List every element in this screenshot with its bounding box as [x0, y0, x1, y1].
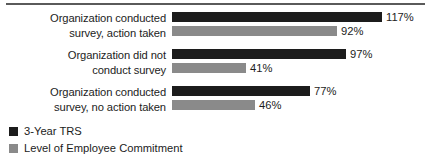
category-label: Organization did not conduct survey — [4, 48, 166, 77]
legend-item-3-year-trs: 3-Year TRS — [9, 124, 183, 139]
bar-level-of-employee-commitment — [172, 63, 246, 73]
bar-group: Organization conducted survey, action ta… — [0, 11, 429, 48]
category-label-line1: Organization conducted — [50, 12, 166, 24]
table-row: 92% — [172, 26, 429, 36]
bar-3-year-trs — [172, 12, 382, 22]
bar-level-of-employee-commitment — [172, 100, 255, 110]
bar-group-bars: 77% 46% — [172, 86, 429, 114]
bar-value-label: 92% — [341, 24, 363, 38]
chart-legend: 3-Year TRS Level of Employee Commitment — [9, 124, 183, 158]
bar-value-label: 117% — [386, 10, 414, 24]
table-row: 97% — [172, 49, 429, 59]
category-label-line1: Organization did not — [68, 49, 166, 61]
legend-swatch-icon — [9, 144, 18, 153]
table-row: 46% — [172, 100, 429, 110]
category-label-line2: survey, action taken — [69, 27, 166, 39]
legend-label: Level of Employee Commitment — [24, 142, 183, 155]
category-label: Organization conducted survey, action ta… — [4, 11, 166, 40]
bar-value-label: 97% — [350, 47, 372, 61]
bar-value-label: 41% — [250, 61, 272, 75]
legend-swatch-icon — [9, 127, 18, 136]
bar-value-label: 77% — [314, 84, 336, 98]
category-label-line2: conduct survey — [92, 64, 166, 76]
legend-label: 3-Year TRS — [24, 125, 82, 138]
legend-item-level-of-employee-commitment: Level of Employee Commitment — [9, 141, 183, 156]
table-row: 77% — [172, 86, 429, 96]
bar-group-bars: 97% 41% — [172, 49, 429, 77]
bar-group: Organization did not conduct survey 97% … — [0, 48, 429, 85]
bar-chart: Organization conducted survey, action ta… — [0, 0, 429, 159]
category-label-line2: survey, no action taken — [54, 101, 166, 113]
bar-value-label: 46% — [259, 98, 281, 112]
table-row: 41% — [172, 63, 429, 73]
category-label-line1: Organization conducted — [50, 86, 166, 98]
bar-group: Organization conducted survey, no action… — [0, 85, 429, 122]
category-label: Organization conducted survey, no action… — [4, 85, 166, 114]
bar-level-of-employee-commitment — [172, 26, 337, 36]
bar-3-year-trs — [172, 86, 310, 96]
table-row: 117% — [172, 12, 429, 22]
bar-group-bars: 117% 92% — [172, 12, 429, 40]
top-divider — [6, 3, 425, 5]
bar-3-year-trs — [172, 49, 346, 59]
plot-area: Organization conducted survey, action ta… — [0, 11, 429, 122]
